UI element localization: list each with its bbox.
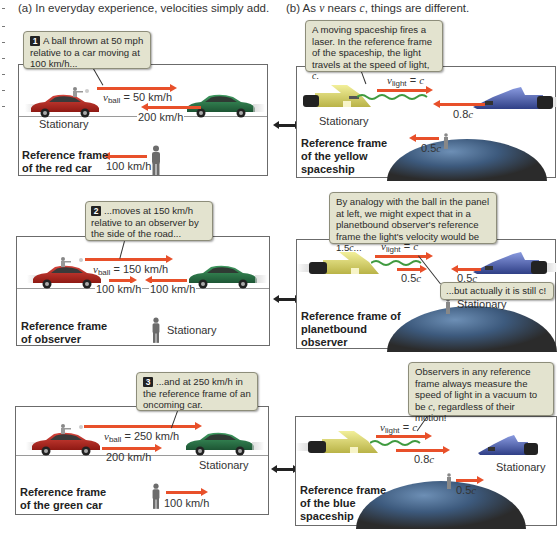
v-value: = 50 km/h bbox=[120, 91, 172, 103]
callout-text: ...moves at 150 km/h relative to an obse… bbox=[91, 205, 199, 239]
green-car-velocity-arrow bbox=[147, 106, 201, 109]
earth-velocity-arrow bbox=[415, 137, 439, 140]
v-sub: ball bbox=[109, 435, 121, 444]
callout-text-end: . bbox=[316, 70, 319, 81]
callout-analogy: By analogy with the ball in the panel at… bbox=[329, 192, 497, 244]
planet-observer-icon bbox=[445, 298, 451, 314]
frame-label-line: spaceship bbox=[300, 510, 386, 523]
v-sub: light bbox=[385, 426, 400, 435]
observer-person-icon bbox=[150, 316, 162, 344]
green-car-speed-label: 100 km/h bbox=[149, 283, 196, 295]
light-velocity-label: vlight = c bbox=[380, 421, 417, 435]
v-value: = 250 km/h bbox=[121, 430, 179, 442]
blue-spaceship-icon bbox=[473, 87, 557, 115]
red-car-status: Stationary bbox=[39, 118, 89, 130]
callout-spaceship-intro: A moving spaceship fires a laser. In the… bbox=[305, 20, 443, 72]
frame-label: Reference frameof observer bbox=[21, 320, 107, 346]
observer-status: Stationary bbox=[167, 324, 217, 336]
earth-icon bbox=[387, 306, 557, 352]
frame-label-line: spaceship bbox=[301, 163, 387, 176]
frame-label-line: Reference frame bbox=[22, 149, 108, 162]
v-eq: = bbox=[400, 421, 413, 433]
light-velocity-label: vlight = c bbox=[387, 74, 424, 88]
edge-mark bbox=[2, 26, 5, 27]
earth-velocity-arrow bbox=[456, 479, 478, 482]
ball-velocity-arrow bbox=[85, 258, 167, 261]
thrower-icon bbox=[71, 87, 83, 97]
heading-a: (a) In everyday experience, velocities s… bbox=[18, 2, 269, 14]
callout-conclusion: Observers in any reference frame always … bbox=[408, 362, 554, 416]
callout-text: A ball thrown at 50 mph relative to a ca… bbox=[30, 35, 143, 69]
panel-red-car-frame: vball = 50 km/h 200 km/h Stationary 100 … bbox=[18, 64, 268, 176]
frame-label-line: of the blue bbox=[300, 497, 386, 510]
speed-num: 0.5 bbox=[401, 272, 416, 284]
green-car-status: Stationary bbox=[199, 459, 249, 471]
frame-label-line: observer bbox=[301, 336, 401, 349]
edge-mark bbox=[2, 42, 5, 43]
edge-mark bbox=[2, 90, 5, 91]
panel-yellow-spaceship-frame: vlight = c 0.8c Stationary 0.5c Referenc… bbox=[296, 66, 556, 178]
yellow-spaceship-icon bbox=[296, 431, 380, 459]
v-sub: light bbox=[392, 79, 407, 88]
double-arrow-icon bbox=[278, 298, 296, 301]
ball-velocity-label: vball = 250 km/h bbox=[104, 430, 179, 444]
yellow-ship-speed-label: 0.8c bbox=[414, 453, 434, 465]
v-sub: ball bbox=[98, 268, 110, 277]
panel-observer-frame: vball = 150 km/h 100 km/h 100 km/h Stati… bbox=[16, 236, 270, 346]
frame-label-line: of the green car bbox=[20, 499, 106, 512]
speed-num: 0.5 bbox=[421, 142, 436, 154]
red-car-speed-label: 200 km/h bbox=[106, 451, 151, 463]
speed-c: c bbox=[416, 272, 421, 284]
blue-spaceship-icon bbox=[473, 252, 557, 280]
callout-text: ...and at 250 km/h in the reference fram… bbox=[143, 376, 251, 410]
step-number-badge: 3 bbox=[143, 377, 153, 387]
callout-1: 1A ball thrown at 50 mph relative to a c… bbox=[23, 31, 151, 69]
green-car-velocity-arrow bbox=[151, 279, 187, 282]
green-car-icon bbox=[187, 265, 267, 290]
blue-ship-status: Stationary bbox=[496, 461, 546, 473]
planet-observer-icon bbox=[446, 473, 452, 489]
frame-label-line: Reference frame bbox=[301, 137, 387, 150]
callout-still-c: ...but actually it is still c! bbox=[440, 282, 554, 300]
frame-label-line: of the yellow bbox=[301, 150, 387, 163]
ball-velocity-arrow bbox=[84, 425, 196, 428]
frame-label-line: of observer bbox=[21, 333, 107, 346]
frame-label-line: of the red car bbox=[22, 162, 108, 175]
yellow-spaceship-icon bbox=[297, 252, 381, 280]
laser-wave-icon bbox=[371, 259, 427, 267]
heading-b-mid: nears bbox=[324, 2, 359, 14]
callout-2: 2...moves at 150 km/h relative to an obs… bbox=[85, 201, 213, 241]
observer-person-icon bbox=[149, 145, 163, 175]
panel-green-car-frame: vball = 250 km/h 200 km/h Stationary 100… bbox=[15, 406, 269, 515]
double-arrow-icon bbox=[278, 124, 296, 127]
edge-mark bbox=[2, 58, 5, 59]
ball-velocity-label: vball = 150 km/h bbox=[93, 263, 168, 277]
observer-person-icon bbox=[150, 482, 162, 510]
observer-speed-label: 100 km/h bbox=[106, 160, 151, 172]
green-car-speed-label: 200 km/h bbox=[137, 111, 184, 123]
ball-icon bbox=[85, 89, 89, 93]
red-car-speed-label: 100 km/h bbox=[95, 283, 142, 295]
frame-label-line: Reference frame bbox=[300, 484, 386, 497]
speed-c: c bbox=[429, 453, 434, 465]
edge-mark bbox=[2, 74, 5, 75]
frame-label: Reference frame ofplanetboundobserver bbox=[301, 310, 401, 349]
red-car-icon bbox=[25, 94, 103, 119]
heading-b: (b) As v nears c, things are different. bbox=[286, 2, 469, 14]
blue-ship-velocity-arrow bbox=[439, 103, 485, 106]
light-velocity-arrow bbox=[376, 435, 426, 438]
laser-wave-icon bbox=[370, 439, 426, 447]
earth-icon bbox=[387, 139, 547, 181]
green-car-icon bbox=[184, 432, 264, 457]
ball-velocity-arrow bbox=[97, 87, 171, 90]
observer-speed-label: 100 km/h bbox=[164, 497, 209, 509]
blue-ship-velocity-arrow bbox=[457, 268, 481, 271]
speed-c: c bbox=[471, 484, 476, 496]
yellow-ship-speed-label: 0.5c bbox=[401, 272, 421, 284]
double-arrow-icon bbox=[276, 468, 294, 471]
speed-num: 0.8 bbox=[414, 453, 429, 465]
speed-num: 0.8 bbox=[453, 108, 468, 120]
speed-c: c bbox=[436, 142, 441, 154]
observer-velocity-arrow bbox=[166, 491, 202, 494]
planet-observer-icon bbox=[443, 133, 449, 149]
